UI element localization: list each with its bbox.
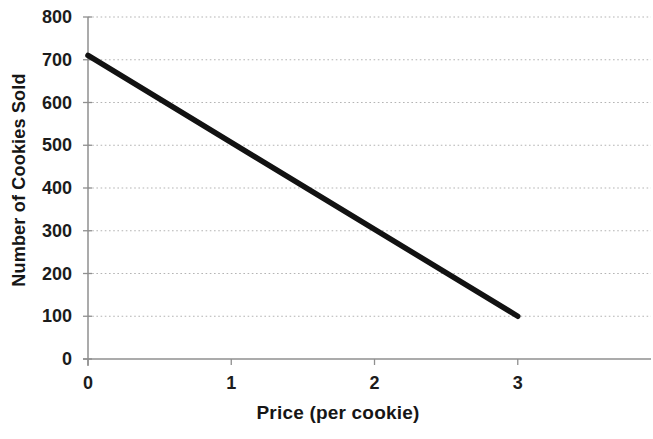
x-tick-label-1: 1 [226,373,236,393]
y-tick-label-400: 400 [42,178,72,198]
y-tick-label-500: 500 [42,135,72,155]
y-axis-title: Number of Cookies Sold [9,73,30,286]
x-tick-label-0: 0 [83,373,93,393]
y-tick-label-800: 800 [42,7,72,27]
y-tick-label-0: 0 [62,349,72,369]
demand-line-series-0 [88,55,518,316]
chart-canvas: 01002003004005006007008000123 [0,0,653,439]
y-tick-label-700: 700 [42,50,72,70]
y-tick-label-600: 600 [42,93,72,113]
x-tick-label-3: 3 [513,373,523,393]
x-axis-title: Price (per cookie) [256,402,419,424]
x-tick-label-2: 2 [370,373,380,393]
cookies-demand-chart-figure: 01002003004005006007008000123 Number of … [0,0,653,439]
y-tick-label-100: 100 [42,306,72,326]
y-tick-label-200: 200 [42,264,72,284]
y-tick-label-300: 300 [42,221,72,241]
